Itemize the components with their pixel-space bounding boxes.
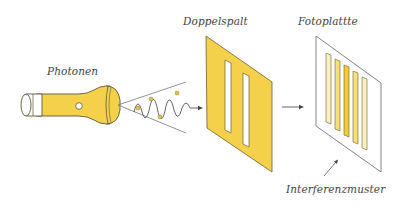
- fringe-4: [353, 71, 358, 144]
- photon-dot: [136, 106, 140, 110]
- arrow-to-plate: [282, 105, 304, 109]
- double-slit-diagram: Photonen Doppelspalt Fotoplattte Interfe…: [0, 0, 402, 208]
- label-fotoplatte: Fotoplattte: [298, 15, 358, 27]
- flashlight-icon: [21, 86, 120, 124]
- photon-dot: [158, 115, 162, 119]
- fringe-3: [344, 65, 349, 137]
- photon-dot: [149, 97, 153, 101]
- double-slit-panel: [206, 36, 272, 172]
- label-photonen: Photonen: [47, 65, 98, 77]
- pattern-pointer-arrow: [324, 160, 338, 177]
- arrow-head-icon: [299, 105, 304, 109]
- diagram-canvas: [0, 0, 402, 208]
- photo-plate: [316, 36, 381, 172]
- photon-beam: [118, 82, 203, 133]
- fringe-2: [335, 59, 340, 131]
- slit-2: [243, 73, 249, 147]
- label-doppelspalt: Doppelspalt: [183, 15, 248, 27]
- photon-dot: [175, 91, 179, 95]
- label-interferenzmuster: Interferenzmuster: [286, 183, 385, 195]
- fringe-5: [362, 77, 367, 150]
- arrow-head-icon: [198, 106, 203, 110]
- slit-1: [225, 60, 231, 133]
- fringe-1: [326, 53, 331, 124]
